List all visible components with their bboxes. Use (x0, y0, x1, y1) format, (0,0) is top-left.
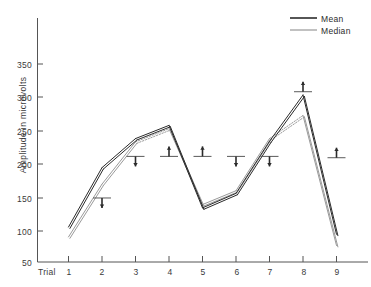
series-segment (203, 193, 237, 208)
marker-arrow-head (267, 163, 271, 166)
marker-arrow-head (100, 205, 104, 208)
series-segment (70, 169, 104, 228)
series-segment (69, 184, 103, 237)
series-segment (169, 125, 203, 208)
series-segment (137, 127, 171, 140)
marker-arrow-head (301, 82, 305, 85)
x-axis-ticks (69, 256, 337, 262)
chart-figure: Amplitude in microvolts Trial 350 300 25… (0, 0, 371, 287)
series-segment (236, 139, 270, 191)
series-segment (170, 127, 204, 210)
series-segment (70, 186, 104, 239)
plot-canvas (0, 0, 371, 287)
series-segment (237, 143, 271, 195)
series-median (69, 115, 338, 246)
series-segment (204, 192, 238, 206)
series-segment (237, 140, 271, 192)
series-segment (271, 96, 305, 142)
series-segment (270, 95, 304, 141)
series-segment (236, 141, 270, 193)
series-segment (304, 117, 338, 247)
marker-arrow-head (133, 163, 137, 166)
series-segment (303, 95, 337, 234)
series-segment (303, 115, 337, 245)
series-segment (69, 168, 103, 227)
series-segment (136, 125, 170, 138)
series-segment (304, 96, 338, 235)
series-mean (69, 95, 338, 236)
y-axis-ticks (38, 64, 44, 231)
series-segment (136, 129, 170, 142)
marker-arrow-head (200, 146, 204, 149)
series-segment (137, 130, 171, 143)
marker-arrow-head (167, 146, 171, 149)
marker-arrow-head (334, 148, 338, 151)
marker-arrow-head (234, 163, 238, 166)
